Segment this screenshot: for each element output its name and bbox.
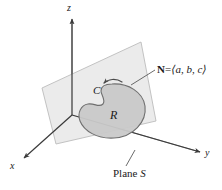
normal-components: ⟨a, b, c⟩: [171, 63, 206, 75]
figure-canvas: [0, 0, 222, 190]
plane-label: Plane S: [113, 168, 146, 179]
region-label: R: [110, 109, 117, 121]
vector-calculus-figure: z x y C R N=⟨a, b, c⟩ Plane S: [0, 0, 222, 190]
plane-label-word: Plane: [113, 167, 137, 179]
normal-vector-symbol: N: [157, 63, 165, 75]
x-axis-label: x: [10, 161, 14, 171]
y-axis-label: y: [205, 148, 209, 158]
z-axis-label: z: [67, 3, 71, 13]
normal-vector-label: N=⟨a, b, c⟩: [157, 64, 207, 75]
plane-label-symbol: S: [140, 167, 146, 179]
plane-leader-line: [126, 150, 135, 166]
curve-label: C: [93, 85, 100, 96]
